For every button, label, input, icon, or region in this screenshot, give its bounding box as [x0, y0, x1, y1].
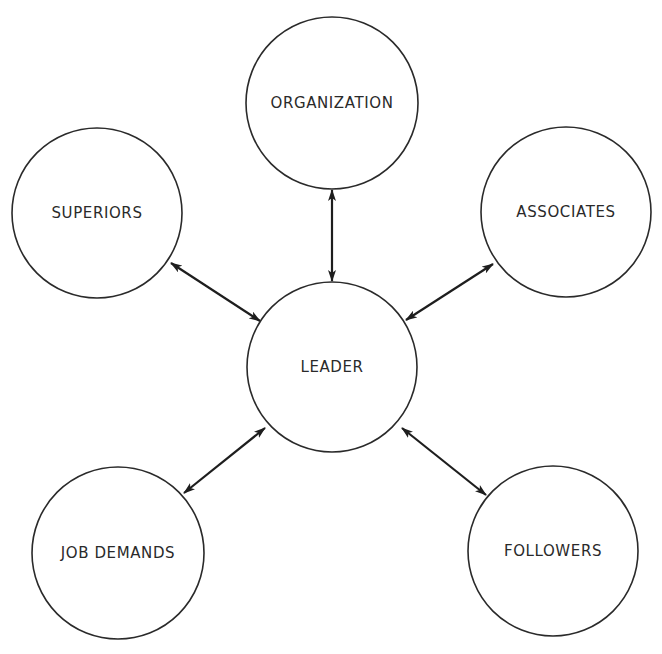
- node-label-associates: ASSOCIATES: [516, 203, 615, 221]
- leadership-diagram: LEADERORGANIZATIONSUPERIORSASSOCIATESJOB…: [0, 0, 662, 654]
- nodes-layer: LEADERORGANIZATIONSUPERIORSASSOCIATESJOB…: [12, 17, 651, 639]
- node-associates: ASSOCIATES: [481, 127, 651, 297]
- node-superiors: SUPERIORS: [12, 128, 182, 298]
- node-followers: FOLLOWERS: [468, 466, 638, 636]
- double-arrow-leader-job-demands: [184, 428, 265, 493]
- node-organization: ORGANIZATION: [246, 17, 418, 189]
- node-label-leader: LEADER: [300, 358, 363, 376]
- double-arrow-leader-superiors: [171, 263, 260, 321]
- node-label-job-demands: JOB DEMANDS: [60, 544, 175, 562]
- node-job-demands: JOB DEMANDS: [32, 467, 204, 639]
- double-arrow-leader-followers: [402, 428, 486, 495]
- node-label-superiors: SUPERIORS: [51, 204, 142, 222]
- node-label-organization: ORGANIZATION: [271, 94, 394, 112]
- double-arrow-leader-associates: [406, 264, 493, 320]
- node-label-followers: FOLLOWERS: [504, 542, 602, 560]
- node-leader: LEADER: [247, 282, 417, 452]
